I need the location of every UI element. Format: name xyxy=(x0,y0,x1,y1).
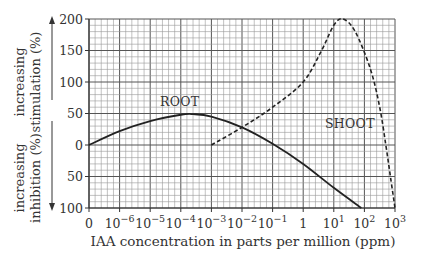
x-tick-labels: 010−610−510−410−310−210−11101102103 xyxy=(85,213,406,231)
svg-text:increasing: increasing xyxy=(12,48,27,117)
x-tick-label: 101 xyxy=(323,213,345,231)
y-axis-label-inhibition: increasing inhibition (%) xyxy=(12,133,43,223)
x-axis-label: IAA concentration in parts per million (… xyxy=(91,233,396,249)
svg-text:inhibition (%): inhibition (%) xyxy=(28,133,43,223)
x-tick-label: 102 xyxy=(353,213,375,231)
y-direction-arrow xyxy=(49,16,55,211)
x-tick-label: 10−6 xyxy=(105,213,135,231)
y-axis-label-stimulation: increasing stimulation (%) xyxy=(12,32,43,133)
root-label: ROOT xyxy=(160,94,200,109)
y-tick-label: 150 xyxy=(59,43,83,58)
plot-grid xyxy=(89,19,395,208)
y-tick-label: 200 xyxy=(59,12,83,27)
y-tick-label: 0 xyxy=(75,138,83,153)
arrow-down-icon xyxy=(49,203,55,211)
root-curve xyxy=(89,114,361,208)
y-tick-label: 50 xyxy=(67,106,83,121)
x-tick-label: 10−4 xyxy=(166,213,196,231)
y-tick-label: 100 xyxy=(59,75,83,90)
y-tick-labels: 20015010050050100 xyxy=(59,12,83,216)
svg-text:increasing: increasing xyxy=(12,144,27,213)
x-tick-label: 10−2 xyxy=(227,213,257,231)
svg-text:stimulation (%): stimulation (%) xyxy=(28,32,43,133)
x-tick-label: 10−1 xyxy=(258,213,288,231)
arrow-up-icon xyxy=(49,16,55,24)
x-tick-label: 10−3 xyxy=(196,213,226,231)
shoot-label: SHOOT xyxy=(325,116,375,131)
x-tick-label: 10−5 xyxy=(135,213,165,231)
y-tick-label: 100 xyxy=(59,201,83,216)
chart: 20015010050050100 010−610−510−410−310−21… xyxy=(0,0,428,264)
x-tick-label: 1 xyxy=(299,216,307,231)
x-tick-label: 103 xyxy=(384,213,406,231)
y-tick-label: 50 xyxy=(67,169,83,184)
x-tick-label: 0 xyxy=(85,216,93,231)
